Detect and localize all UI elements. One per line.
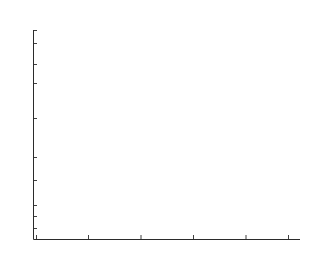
chart-background	[0, 0, 313, 272]
probit-line-chart	[0, 0, 313, 272]
chart-figure	[0, 0, 313, 272]
